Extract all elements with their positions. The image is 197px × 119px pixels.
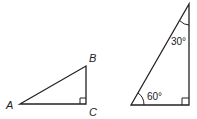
vertex-label-c: C (89, 106, 97, 118)
triangle-30-60-90-shape (131, 4, 189, 105)
angle-label-60: 60° (147, 91, 162, 102)
vertex-label-b: B (89, 52, 96, 64)
vertex-label-a: A (5, 99, 13, 111)
angle-arc-60 (138, 93, 144, 105)
right-angle-marker (182, 98, 189, 105)
triangle-abc-shape (20, 66, 86, 104)
angle-arc-30 (180, 21, 190, 26)
triangle-abc: A B C (5, 52, 97, 118)
triangle-30-60-90: 30° 60° (131, 4, 189, 105)
triangles-diagram: A B C 30° 60° (0, 0, 197, 119)
angle-label-30: 30° (171, 36, 186, 47)
right-angle-marker-c (80, 98, 86, 104)
